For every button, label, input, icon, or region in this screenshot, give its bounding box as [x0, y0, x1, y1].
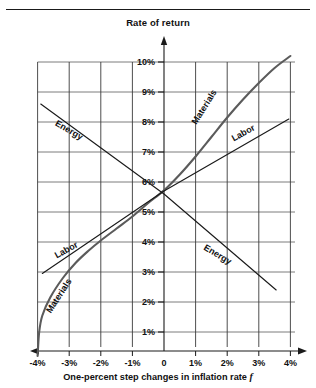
y-tick-label: 7% — [142, 147, 155, 157]
x-axis-arrowhead-right — [298, 348, 307, 355]
x-tick-label: -2% — [93, 358, 109, 368]
curve-label-energy: Energy — [202, 242, 233, 266]
series-line-labor — [42, 119, 288, 274]
y-tick-label: 8% — [142, 117, 155, 127]
x-axis-caption-text: One-percent step changes in inflation ra… — [63, 372, 247, 382]
y-tick-label: 4% — [142, 237, 155, 247]
curve-label-materials: Materials — [190, 88, 219, 126]
x-tick-label: -3% — [61, 358, 77, 368]
x-tick-label: -1% — [124, 358, 140, 368]
x-tick-label: 0 — [161, 358, 166, 368]
x-tick-label: 2% — [221, 358, 234, 368]
x-tick-label: 4% — [284, 358, 297, 368]
y-axis-arrowhead — [161, 36, 167, 45]
y-tick-label: 3% — [142, 267, 155, 277]
x-tick-label: 1% — [189, 358, 202, 368]
y-tick-label: 1% — [142, 327, 155, 337]
x-tick-label: 3% — [252, 358, 265, 368]
chart-canvas: 1%2%3%4%5%6%7%8%9%10%-4%-3%-2%-1%01%2%3%… — [0, 0, 316, 388]
x-tick-label: -4% — [30, 358, 46, 368]
y-tick-label: 5% — [142, 207, 155, 217]
y-tick-label: 9% — [142, 87, 155, 97]
y-tick-label: 2% — [142, 297, 155, 307]
x-axis-caption-symbol: f — [250, 371, 253, 382]
y-tick-label: 10% — [137, 57, 155, 67]
figure-container: Rate of return 1%2%3%4%5%6%7%8%9%10%-4%-… — [0, 0, 316, 388]
x-axis-caption: One-percent step changes in inflation ra… — [0, 371, 316, 382]
